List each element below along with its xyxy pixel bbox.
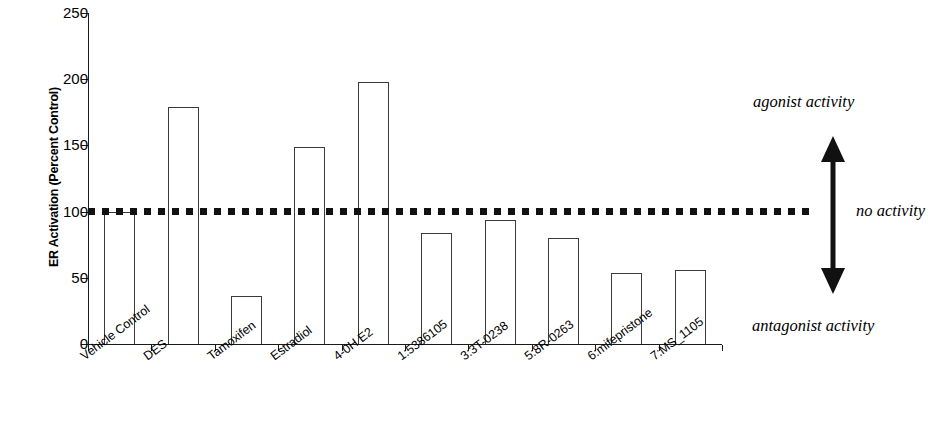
y-tick-label: 200 bbox=[46, 71, 88, 86]
bar-chart: ER Activation (Percent Control) 25020015… bbox=[0, 0, 929, 438]
bars-layer bbox=[88, 13, 722, 344]
x-tick-mark bbox=[722, 345, 723, 351]
double-headed-vertical-arrow-icon bbox=[812, 136, 854, 294]
bar-estradiol bbox=[294, 147, 325, 344]
y-tick-label: 50 bbox=[46, 270, 88, 285]
annotation-antagonist-activity: antagonist activity bbox=[752, 316, 874, 336]
y-axis-ticks: 250200150100500 bbox=[0, 0, 88, 438]
y-tick-label: 150 bbox=[46, 137, 88, 152]
bar-des bbox=[168, 107, 199, 344]
reference-line-100-percent bbox=[88, 208, 812, 215]
annotation-agonist-activity: agonist activity bbox=[753, 92, 854, 112]
y-tick-label: 100 bbox=[46, 204, 88, 219]
y-tick-label: 250 bbox=[46, 5, 88, 20]
annotation-no-activity: no activity bbox=[856, 201, 925, 221]
